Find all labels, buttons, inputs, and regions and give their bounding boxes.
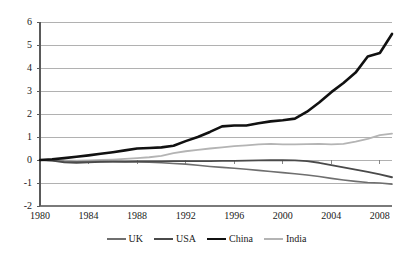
- legend-item-usa[interactable]: USA: [154, 234, 196, 244]
- legend-label: USA: [176, 234, 196, 244]
- y-axis-tick-label: 6: [8, 17, 32, 27]
- legend-swatch-icon: [264, 238, 283, 240]
- legend-item-china[interactable]: China: [207, 234, 253, 244]
- series-line-usa: [40, 160, 392, 177]
- plot-area: [0, 0, 413, 216]
- legend-item-uk[interactable]: UK: [107, 234, 143, 244]
- y-axis-tick-label: 1: [8, 132, 32, 142]
- x-axis-tick-label: 1992: [166, 211, 206, 221]
- x-axis-tick-label: 1996: [214, 211, 254, 221]
- y-axis-tick-label: -2: [8, 201, 32, 211]
- legend-swatch-icon: [107, 238, 126, 240]
- x-axis-tick-label: 2008: [360, 211, 400, 221]
- y-axis-tick-label: 5: [8, 40, 32, 50]
- line-chart: 6543210-1-2 1980198419881992199620002004…: [0, 0, 413, 260]
- x-axis-tick-label: 2000: [263, 211, 303, 221]
- x-axis-tick-label: 1980: [20, 211, 60, 221]
- x-axis-tick-label: 1988: [117, 211, 157, 221]
- legend-label: UK: [129, 234, 143, 244]
- y-axis-tick-label: 3: [8, 86, 32, 96]
- y-axis-tick-label: 2: [8, 109, 32, 119]
- series-line-uk: [40, 160, 392, 184]
- legend-label: India: [286, 234, 307, 244]
- legend-swatch-icon: [154, 238, 173, 240]
- x-axis-tick-label: 1984: [69, 211, 109, 221]
- y-axis-tick-label: 4: [8, 63, 32, 73]
- legend-item-india[interactable]: India: [264, 234, 307, 244]
- y-axis-tick-label: 0: [8, 155, 32, 165]
- y-axis-tick-label: -1: [8, 178, 32, 188]
- series-line-china: [40, 34, 392, 160]
- x-axis-tick-label: 2004: [311, 211, 351, 221]
- chart-legend: UKUSAChinaIndia: [0, 234, 413, 244]
- legend-label: China: [229, 234, 253, 244]
- series-line-india: [40, 134, 392, 161]
- legend-swatch-icon: [207, 238, 226, 241]
